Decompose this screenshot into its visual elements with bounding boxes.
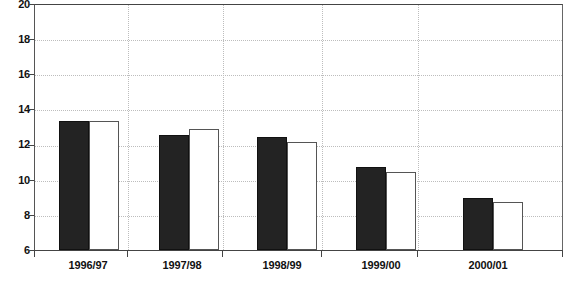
gridline-h-18 [35, 40, 562, 41]
bar-series1-1999-00 [356, 167, 386, 250]
x-tick-mark-4 [417, 250, 418, 257]
y-tick-label-18: 18 [4, 34, 30, 45]
gridline-v-2 [223, 5, 224, 250]
x-tick-label-1998-99: 1998/99 [242, 259, 322, 271]
bar-series1-1996-97 [59, 121, 89, 251]
x-tick-label-1997-98: 1997/98 [142, 259, 222, 271]
gridline-v-4 [418, 5, 419, 250]
x-axis-line [28, 250, 563, 251]
plot-area [34, 4, 563, 250]
bar-series1-1997-98 [159, 135, 189, 250]
y-tick-label-8: 8 [4, 210, 30, 221]
bar-series2-1998-99 [287, 142, 317, 251]
x-tick-label-2000-01: 2000/01 [448, 259, 528, 271]
x-tick-mark-0 [34, 250, 35, 257]
y-tick-label-10: 10 [4, 175, 30, 186]
bar-series2-1999-00 [386, 172, 416, 250]
bar-series2-1996-97 [89, 121, 119, 251]
bar-chart: 20 18 16 14 12 10 8 6 [0, 0, 575, 281]
bar-series2-1997-98 [189, 129, 219, 250]
x-tick-label-1999-00: 1999/00 [341, 259, 421, 271]
y-tick-label-12: 12 [4, 139, 30, 150]
x-tick-mark-5 [562, 250, 563, 257]
y-axis-labels: 20 18 16 14 12 10 8 6 [0, 0, 30, 281]
y-tick-label-16: 16 [4, 69, 30, 80]
x-tick-mark-3 [321, 250, 322, 257]
y-tick-label-20: 20 [4, 0, 30, 10]
x-tick-mark-2 [222, 250, 223, 257]
bar-series2-2000-01 [493, 202, 523, 250]
x-tick-mark-1 [127, 250, 128, 257]
x-tick-label-1996-97: 1996/97 [48, 259, 128, 271]
bar-series1-1998-99 [257, 137, 287, 250]
y-tick-label-14: 14 [4, 104, 30, 115]
gridline-v-3 [322, 5, 323, 250]
bar-series1-2000-01 [463, 198, 493, 250]
gridline-v-1 [128, 5, 129, 250]
gridline-h-16 [35, 75, 562, 76]
y-tick-label-6: 6 [4, 245, 30, 256]
gridline-h-14 [35, 110, 562, 111]
